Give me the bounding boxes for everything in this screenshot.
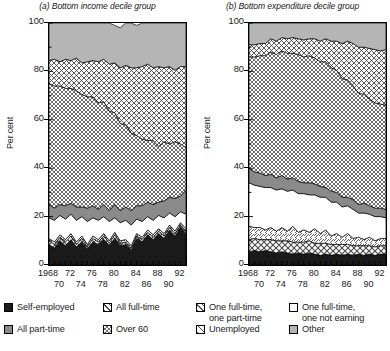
legend-item-unemployed[interactable]: Unemployed (196, 324, 260, 335)
legend-label: Unemployed (209, 324, 260, 335)
panel-b-ylabel: Per cent (202, 103, 212, 163)
y-tick-label: 0 (20, 259, 44, 268)
x-tick-label: 1968 (38, 268, 58, 278)
x-tick-label: 82 (320, 279, 330, 289)
x-tick-label: 78 (98, 279, 108, 289)
legend-swatch-light-gray-icon (289, 325, 298, 334)
x-tick-label: 76 (87, 268, 97, 278)
legend-label: Other (302, 324, 324, 335)
legend-swatch-x-hatch-icon (196, 325, 205, 334)
legend-label: All part-time (17, 324, 65, 335)
x-tick-label: 72 (65, 268, 75, 278)
y-tick-label: 60 (220, 114, 244, 123)
x-tick-label: 78 (298, 279, 308, 289)
x-tick-label: 92 (175, 268, 185, 278)
legend-item-one-full-time-one-not-earning[interactable]: One full-time, one not earning (289, 302, 364, 323)
legend-label: Self-employed (17, 302, 74, 313)
y-tick-label: 40 (220, 162, 244, 171)
legend-swatch-white-icon (289, 303, 298, 312)
legend-label: All full-time (116, 302, 160, 313)
chart-legend: Self-employedAll full-timeOne full-time,… (0, 296, 390, 351)
x-tick-label: 84 (331, 268, 341, 278)
x-tick-label: 82 (120, 279, 130, 289)
legend-item-self-employed[interactable]: Self-employed (4, 302, 74, 313)
legend-item-other[interactable]: Other (289, 324, 324, 335)
y-tick-label: 80 (20, 65, 44, 74)
x-tick-label: 76 (287, 268, 297, 278)
x-tick-label: 74 (76, 279, 86, 289)
y-tick-label: 100 (20, 17, 44, 26)
x-tick-label: 80 (109, 268, 119, 278)
chart-panel-income: (a) Bottom income decile group Per cent … (0, 0, 195, 290)
legend-label: Over 60 (116, 324, 148, 335)
x-tick-label: 70 (254, 279, 264, 289)
legend-swatch-diagonal-lines-icon (196, 303, 205, 312)
x-tick-label: 74 (276, 279, 286, 289)
x-tick-label: 88 (353, 268, 363, 278)
panel-b-plot-area (248, 22, 387, 266)
legend-label: One full-time, one not earning (302, 302, 364, 323)
x-tick-label: 88 (153, 268, 163, 278)
x-tick-label: 1968 (238, 268, 258, 278)
x-tick-label: 72 (265, 268, 275, 278)
x-tick-label: 92 (375, 268, 385, 278)
x-tick-label: 86 (142, 279, 152, 289)
y-tick-label: 0 (220, 259, 244, 268)
panel-b-title: (b) Bottom expenditure decile group (195, 1, 390, 11)
x-tick-label: 90 (364, 279, 374, 289)
panel-a-ylabel: Per cent (5, 103, 15, 163)
legend-item-all-part-time[interactable]: All part-time (4, 324, 65, 335)
legend-item-one-full-time-one-part-time[interactable]: One full-time, one part-time (196, 302, 262, 323)
y-tick-label: 20 (220, 211, 244, 220)
x-tick-label: 80 (309, 268, 319, 278)
x-tick-label: 70 (54, 279, 64, 289)
x-tick-label: 86 (342, 279, 352, 289)
panel-a-title: (a) Bottom income decile group (0, 1, 195, 11)
legend-item-over-60[interactable]: Over 60 (103, 324, 148, 335)
legend-swatch-solid-black-icon (4, 303, 13, 312)
legend-label: One full-time, one part-time (209, 302, 262, 323)
legend-swatch-diagonal-cross-icon (103, 303, 112, 312)
panel-a-plot-area (48, 22, 187, 266)
legend-swatch-solid-gray-icon (4, 325, 13, 334)
x-tick-label: 84 (131, 268, 141, 278)
legend-item-all-full-time[interactable]: All full-time (103, 302, 160, 313)
x-tick-label: 90 (164, 279, 174, 289)
legend-swatch-checker-icon (103, 325, 112, 334)
chart-panel-expenditure: (b) Bottom expenditure decile group Per … (195, 0, 390, 290)
y-tick-label: 20 (20, 211, 44, 220)
y-tick-label: 60 (20, 114, 44, 123)
y-tick-label: 80 (220, 65, 244, 74)
y-tick-label: 40 (20, 162, 44, 171)
y-tick-label: 100 (220, 17, 244, 26)
